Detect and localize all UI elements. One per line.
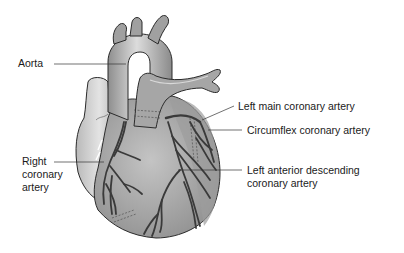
carotid-branch — [130, 18, 142, 37]
label-left-anterior-descending: Left anterior descending coronary artery — [247, 164, 360, 190]
brachiocephalic-branch — [113, 23, 126, 44]
leader-left-main — [202, 106, 234, 120]
label-left-main-coronary-artery: Left main coronary artery — [238, 100, 355, 113]
subclavian-branch — [148, 15, 169, 44]
label-aorta: Aorta — [18, 57, 43, 70]
label-right-coronary-artery: Right coronary artery — [22, 155, 63, 194]
label-circumflex-coronary-artery: Circumflex coronary artery — [247, 124, 370, 137]
heart-diagram: Aorta Right coronary artery Left main co… — [0, 0, 404, 253]
